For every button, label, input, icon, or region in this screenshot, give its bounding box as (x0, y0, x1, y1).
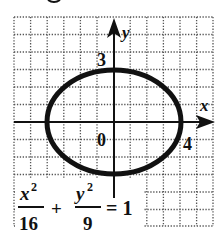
x-axis-label: x (199, 96, 209, 115)
origin-label: 0 (97, 130, 106, 150)
svg-text:2: 2 (87, 180, 93, 194)
svg-text:16: 16 (19, 213, 38, 234)
svg-text:= 1: = 1 (106, 197, 132, 219)
svg-text:2: 2 (31, 180, 37, 194)
y-intercept-label: 3 (97, 50, 106, 70)
y-axis-label: y (120, 23, 130, 42)
ellipse-diagram: y x 3 0 4 x 2 16 + y 2 9 = 1 (0, 0, 221, 241)
svg-text:+: + (51, 198, 62, 219)
cropped-glyph-fragment (48, 0, 60, 2)
x-intercept-label: 4 (183, 134, 192, 154)
svg-text:9: 9 (83, 213, 93, 234)
svg-text:x: x (19, 183, 30, 204)
svg-text:y: y (74, 183, 85, 204)
